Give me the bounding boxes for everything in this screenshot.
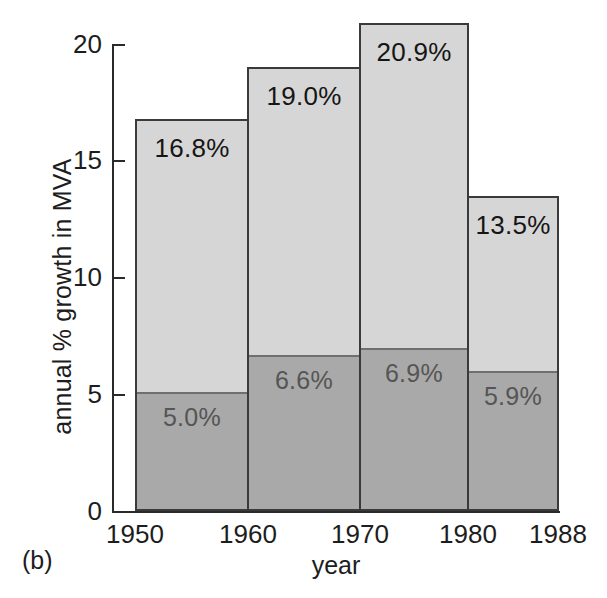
bar-1980[interactable]: 13.5% 5.9% <box>467 196 559 511</box>
bar-1950-total-label: 16.8% <box>137 133 247 164</box>
x-tick-label-1960: 1960 <box>193 519 303 550</box>
panel-caption: (b) <box>22 546 53 575</box>
bar-1980-lower-segment: 5.9% <box>469 371 557 509</box>
bar-1950-upper-segment: 16.8% <box>137 121 247 392</box>
bar-1970-lower-label: 6.9% <box>361 359 467 388</box>
bar-1970-lower-segment: 6.9% <box>361 348 467 509</box>
bar-1960-lower-label: 6.6% <box>249 366 359 395</box>
bar-1950-lower-segment: 5.0% <box>137 392 247 509</box>
y-tick-label-15: 15 <box>40 147 112 173</box>
y-tick-label-5: 5 <box>40 381 112 407</box>
bar-1950[interactable]: 16.8% 5.0% <box>135 119 249 511</box>
bar-1960[interactable]: 19.0% 6.6% <box>247 67 361 511</box>
plot-area: 16.8% 5.0% 19.0% 6.6% 20.9% 6.9% 13 <box>112 44 560 511</box>
bar-1960-total-label: 19.0% <box>249 81 359 112</box>
x-tick-label-1970: 1970 <box>305 519 415 550</box>
bar-chart-figure: annual % growth in MVA 0 5 10 15 20 16.8… <box>0 0 607 598</box>
x-axis-title: year <box>112 551 560 580</box>
x-tick-label-1988: 1988 <box>503 519 607 550</box>
bar-1970-total-label: 20.9% <box>361 37 467 68</box>
bar-1960-upper-segment: 19.0% <box>249 69 359 355</box>
bar-1960-lower-segment: 6.6% <box>249 355 359 509</box>
y-tick-label-10: 10 <box>40 264 112 290</box>
bar-1950-lower-label: 5.0% <box>137 403 247 432</box>
bar-1980-total-label: 13.5% <box>469 210 557 241</box>
bar-1970-upper-segment: 20.9% <box>361 25 467 348</box>
bar-1980-upper-segment: 13.5% <box>469 198 557 371</box>
y-tick-label-20: 20 <box>40 31 112 57</box>
x-tick-label-1950: 1950 <box>80 519 190 550</box>
bar-1970[interactable]: 20.9% 6.9% <box>359 23 469 511</box>
bar-1980-lower-label: 5.9% <box>469 382 557 411</box>
x-axis-line <box>112 511 560 513</box>
